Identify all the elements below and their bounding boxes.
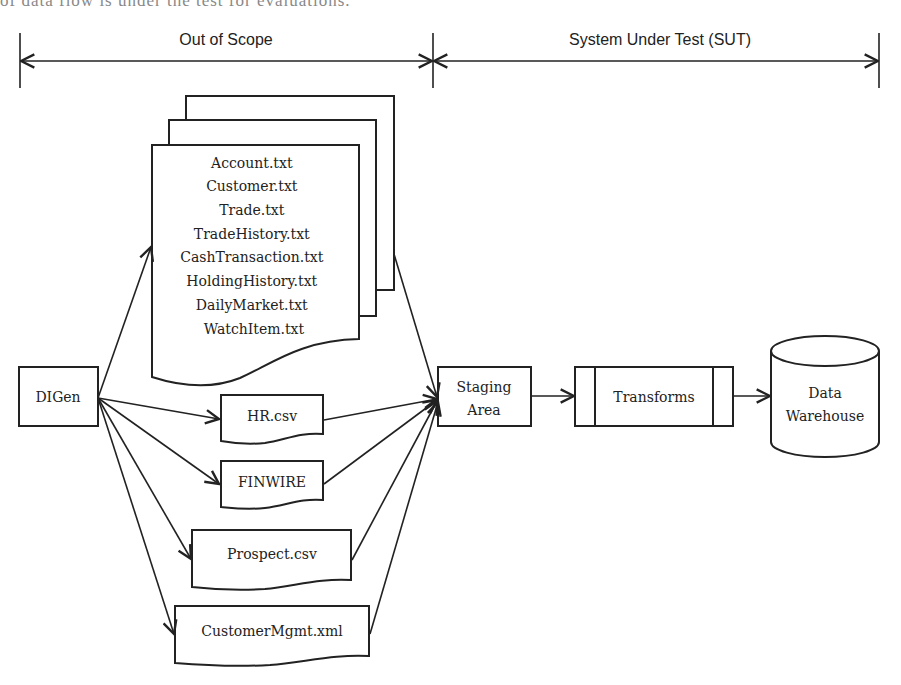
- file-trade-history: TradeHistory.txt: [194, 226, 310, 242]
- file-account: Account.txt: [210, 155, 293, 171]
- file-daily-market: DailyMarket.txt: [196, 297, 308, 313]
- staging-area-node: Staging Area: [438, 367, 531, 426]
- staging-label-line2: Area: [466, 402, 500, 418]
- transforms-label: Transforms: [613, 389, 694, 405]
- file-cash-transaction: CashTransaction.txt: [180, 249, 324, 265]
- sut-label: System Under Test (SUT): [569, 31, 751, 48]
- warehouse-label-line2: Warehouse: [786, 408, 864, 424]
- customermgmt-xml-label: CustomerMgmt.xml: [201, 623, 343, 639]
- file-customer: Customer.txt: [206, 178, 298, 194]
- doc-finwire: FINWIRE: [221, 461, 323, 509]
- finwire-label: FINWIRE: [238, 474, 306, 490]
- scope-bracket-out-of-scope: Out of Scope: [20, 31, 433, 88]
- digen-label: DIGen: [35, 389, 80, 405]
- data-warehouse-node: Data Warehouse: [771, 336, 879, 457]
- doc-prospect-csv: Prospect.csv: [192, 530, 351, 590]
- digen-node: DIGen: [19, 367, 98, 426]
- hr-csv-label: HR.csv: [247, 408, 297, 424]
- staging-label-line1: Staging: [457, 379, 512, 395]
- out-of-scope-label: Out of Scope: [179, 31, 272, 48]
- file-trade: Trade.txt: [219, 202, 285, 218]
- doc-customermgmt-xml: CustomerMgmt.xml: [175, 606, 369, 666]
- scope-bracket-sut: System Under Test (SUT): [434, 31, 879, 88]
- doc-hr-csv: HR.csv: [221, 395, 323, 444]
- file-watch-item: WatchItem.txt: [204, 321, 305, 337]
- warehouse-label-line1: Data: [808, 385, 842, 401]
- transforms-node: Transforms: [575, 367, 733, 426]
- file-holding-history: HoldingHistory.txt: [186, 273, 317, 289]
- file-stack: Account.txt Customer.txt Trade.txt Trade…: [152, 96, 394, 385]
- prospect-csv-label: Prospect.csv: [227, 546, 317, 562]
